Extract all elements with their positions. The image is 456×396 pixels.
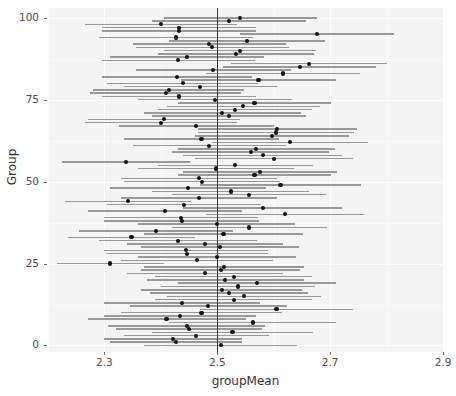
data-point bbox=[252, 101, 256, 105]
data-point bbox=[174, 35, 178, 39]
data-point bbox=[307, 62, 311, 66]
data-point bbox=[176, 58, 180, 62]
data-point bbox=[163, 209, 167, 213]
y-tick-label: 100 bbox=[0, 11, 39, 23]
data-point bbox=[315, 32, 319, 36]
data-point bbox=[164, 317, 168, 321]
data-point bbox=[232, 298, 236, 302]
data-point bbox=[249, 150, 253, 154]
x-tick-label: 2.5 bbox=[197, 356, 237, 368]
data-point bbox=[108, 261, 112, 265]
x-tick-label: 2.3 bbox=[84, 356, 124, 368]
data-point bbox=[270, 134, 274, 138]
data-point bbox=[176, 239, 180, 243]
data-point bbox=[238, 49, 242, 53]
x-tick-label: 2.9 bbox=[423, 356, 456, 368]
y-tick-mark bbox=[44, 182, 47, 183]
data-point bbox=[222, 265, 226, 269]
data-point bbox=[247, 225, 251, 229]
data-point bbox=[283, 212, 287, 216]
data-point bbox=[154, 229, 158, 233]
data-point bbox=[227, 114, 231, 118]
y-tick-label: 25 bbox=[0, 257, 39, 269]
data-point bbox=[274, 307, 278, 311]
data-point bbox=[221, 232, 225, 236]
data-point bbox=[200, 180, 204, 184]
data-point bbox=[261, 153, 265, 157]
data-point bbox=[241, 104, 245, 108]
x-tick-mark bbox=[443, 352, 444, 355]
data-point bbox=[126, 199, 130, 203]
data-point bbox=[175, 75, 179, 79]
data-point bbox=[179, 216, 183, 220]
data-point bbox=[278, 183, 282, 187]
data-point bbox=[194, 124, 198, 128]
data-point bbox=[182, 203, 186, 207]
data-point bbox=[281, 71, 285, 75]
x-tick-mark bbox=[104, 352, 105, 355]
data-point bbox=[251, 320, 255, 324]
y-tick-mark bbox=[44, 345, 47, 346]
data-point bbox=[219, 343, 223, 347]
data-point bbox=[199, 311, 203, 315]
data-point bbox=[177, 26, 181, 30]
data-point bbox=[275, 127, 279, 131]
data-point bbox=[159, 121, 163, 125]
data-point bbox=[167, 88, 171, 92]
y-tick-label: 75 bbox=[0, 93, 39, 105]
data-point bbox=[185, 55, 189, 59]
data-point bbox=[238, 16, 242, 20]
data-point bbox=[256, 78, 260, 82]
data-point bbox=[199, 137, 203, 141]
data-point bbox=[229, 189, 233, 193]
data-point bbox=[210, 45, 214, 49]
data-point bbox=[211, 68, 215, 72]
y-tick-mark bbox=[44, 18, 47, 19]
data-point bbox=[203, 242, 207, 246]
data-point bbox=[234, 52, 238, 56]
data-point bbox=[252, 173, 256, 177]
data-point bbox=[227, 19, 231, 23]
y-tick-mark bbox=[44, 100, 47, 101]
data-point bbox=[159, 22, 163, 26]
plot-panel bbox=[48, 8, 443, 352]
data-point bbox=[258, 170, 262, 174]
data-point bbox=[233, 108, 237, 112]
data-point bbox=[215, 222, 219, 226]
data-point bbox=[214, 166, 218, 170]
data-point bbox=[272, 157, 276, 161]
reference-line-vertical bbox=[217, 8, 218, 352]
x-tick-mark bbox=[330, 352, 331, 355]
x-tick-label: 2.7 bbox=[310, 356, 350, 368]
data-point bbox=[232, 275, 236, 279]
y-axis-title: Group bbox=[5, 137, 19, 197]
data-point bbox=[220, 288, 224, 292]
x-tick-mark bbox=[217, 352, 218, 355]
data-point bbox=[197, 196, 201, 200]
data-point bbox=[254, 147, 258, 151]
data-point bbox=[236, 284, 240, 288]
data-point bbox=[223, 278, 227, 282]
data-point bbox=[230, 330, 234, 334]
data-point bbox=[242, 294, 246, 298]
data-point bbox=[215, 255, 219, 259]
data-point bbox=[177, 94, 181, 98]
data-point bbox=[255, 281, 259, 285]
data-point bbox=[247, 193, 251, 197]
data-point bbox=[129, 235, 133, 239]
data-point bbox=[124, 160, 128, 164]
data-point bbox=[227, 291, 231, 295]
y-tick-label: 0 bbox=[0, 338, 39, 350]
data-point bbox=[274, 130, 278, 134]
data-point bbox=[213, 98, 217, 102]
data-point bbox=[206, 304, 210, 308]
data-point bbox=[288, 140, 292, 144]
x-axis-title: groupMean bbox=[48, 374, 443, 388]
y-tick-mark bbox=[44, 264, 47, 265]
data-point bbox=[171, 337, 175, 341]
data-point bbox=[220, 111, 224, 115]
data-point bbox=[298, 65, 302, 69]
data-point bbox=[261, 206, 265, 210]
data-point bbox=[185, 324, 189, 328]
